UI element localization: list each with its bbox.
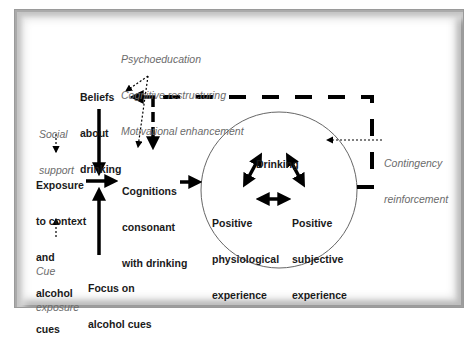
node-subjective-line-1: Positive bbox=[292, 217, 347, 229]
node-exposure-line-2: to context bbox=[36, 215, 86, 227]
node-exposure-to-context: Exposure to context and alcohol cues bbox=[36, 155, 86, 337]
node-focus-on-alcohol-cues: Focus on alcohol cues bbox=[88, 258, 152, 337]
node-physiological-line-3: experience bbox=[212, 289, 279, 301]
node-drinking-line-1: Drinking bbox=[256, 158, 299, 170]
node-cognitions-line-1: Cognitions bbox=[122, 185, 187, 197]
node-beliefs-line-1: Beliefs bbox=[80, 91, 121, 103]
node-beliefs-line-3: drinking bbox=[80, 163, 121, 175]
node-drinking: Drinking bbox=[256, 134, 299, 182]
node-positive-physiological-experience: Positive physiological experience bbox=[212, 193, 279, 313]
node-exposure-line-1: Exposure bbox=[36, 179, 86, 191]
node-beliefs-about-drinking: Beliefs about drinking bbox=[80, 67, 121, 187]
node-physiological-line-1: Positive bbox=[212, 217, 279, 229]
node-focus-line-1: Focus on bbox=[88, 282, 152, 294]
label-contingency-reinforcement: Contingency reinforcement bbox=[384, 133, 448, 217]
label-contingency-line-1: Contingency bbox=[384, 157, 448, 169]
node-subjective-line-2: subjective bbox=[292, 253, 347, 265]
label-social-line-1: Social bbox=[39, 128, 74, 140]
node-subjective-line-3: experience bbox=[292, 289, 347, 301]
label-cognitive-restructuring: Cognitive restructuring bbox=[121, 89, 244, 101]
node-exposure-line-3: and bbox=[36, 251, 86, 263]
node-physiological-line-2: physiological bbox=[212, 253, 279, 265]
label-psychoeducation: Psychoeducation bbox=[121, 53, 244, 65]
label-cognitive-interventions: Psychoeducation Cognitive restructuring … bbox=[121, 29, 244, 149]
label-motivational-enhancement: Motivational enhancement bbox=[121, 125, 244, 137]
node-beliefs-line-2: about bbox=[80, 127, 121, 139]
node-positive-subjective-experience: Positive subjective experience bbox=[292, 193, 347, 313]
node-cognitions-line-2: consonant bbox=[122, 221, 187, 233]
label-contingency-line-2: reinforcement bbox=[384, 193, 448, 205]
node-focus-line-2: alcohol cues bbox=[88, 318, 152, 330]
node-exposure-line-4: alcohol bbox=[36, 287, 86, 299]
node-exposure-line-5: cues bbox=[36, 323, 86, 335]
